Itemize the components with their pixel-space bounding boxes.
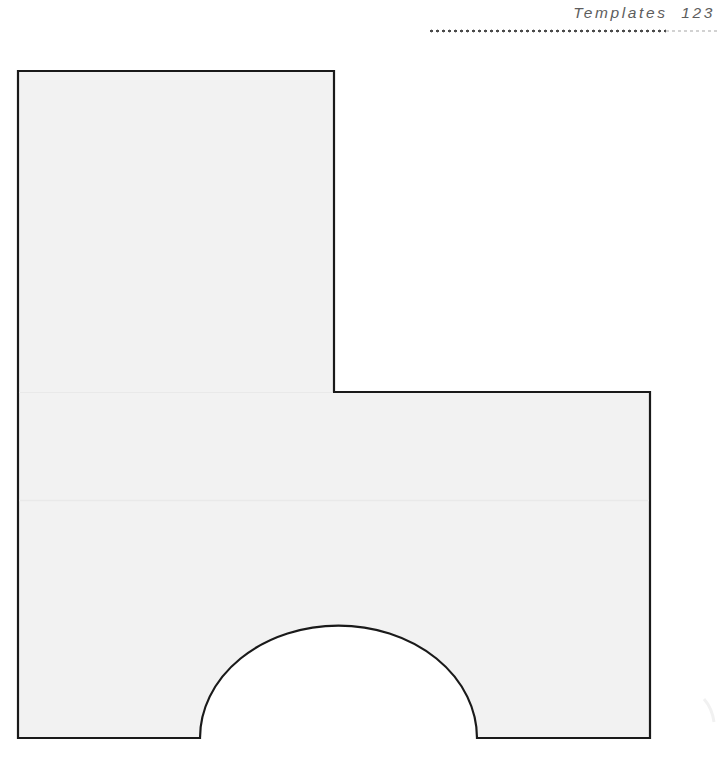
template-outline-path [18, 71, 650, 738]
template-figure [0, 0, 720, 773]
page-canvas: Templates 123 L-shaped template outline … [0, 0, 720, 773]
page-edge-artifact [704, 699, 714, 722]
template-shape-svg [0, 0, 720, 773]
